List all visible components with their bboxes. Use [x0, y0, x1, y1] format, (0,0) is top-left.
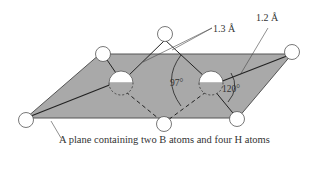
b-atom-left	[109, 71, 133, 95]
h-atom-bridge-top	[158, 27, 173, 42]
label-bridge-angle: 97°	[170, 78, 184, 88]
h-atom-bottom-left	[19, 113, 34, 128]
h-atom-bottom-right	[230, 112, 245, 127]
b-atom-right	[199, 71, 223, 95]
figure-caption: A plane containing two B atoms and four …	[59, 134, 270, 145]
h-atom-top-left	[96, 47, 111, 62]
h-atom-bridge-bottom	[157, 117, 172, 132]
label-bridge-bond-length: 1.3 Å	[213, 23, 236, 34]
molecular-plane	[26, 54, 292, 118]
label-terminal-angle: 120°	[222, 84, 240, 94]
label-terminal-bond-length: 1.2 Å	[256, 12, 279, 23]
h-atom-top-right	[285, 45, 300, 60]
leader-1-3-a	[172, 28, 212, 50]
